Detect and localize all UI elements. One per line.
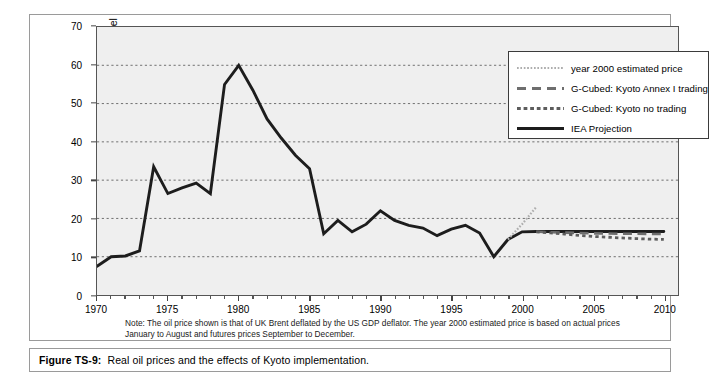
x-tick-minor [181, 296, 182, 299]
x-tick-minor [324, 296, 325, 299]
x-tick-minor [338, 296, 339, 299]
y-tick-label: 60 [42, 59, 82, 70]
x-tick-minor [537, 296, 538, 299]
x-tick-minor [352, 296, 353, 299]
x-tick-label: 1985 [289, 304, 329, 315]
x-tick-minor [124, 296, 125, 299]
x-tick-minor [622, 296, 623, 299]
x-tick-label: 1995 [431, 304, 471, 315]
y-tick-label: 10 [42, 252, 82, 263]
legend-swatch-no-trading [516, 102, 565, 114]
legend-item: year 2000 estimated price [516, 58, 702, 78]
legend-item: IEA Projection [516, 118, 702, 138]
x-tick-minor [224, 296, 225, 299]
x-tick-mark [594, 296, 595, 301]
x-tick-label: 1970 [76, 304, 116, 315]
y-tick-label: 40 [42, 136, 82, 147]
x-tick-label: 2010 [645, 304, 685, 315]
legend-swatch-year-2000-estimated-price [516, 62, 565, 74]
legend-item: G-Cubed: Kyoto no trading [516, 98, 702, 118]
y-tick-label: 20 [42, 213, 82, 224]
figure-note: Note: The oil price shown is that of UK … [125, 318, 650, 340]
x-tick-minor [395, 296, 396, 299]
x-tick-minor [551, 296, 552, 299]
x-tick-minor [366, 296, 367, 299]
x-tick-minor [636, 296, 637, 299]
x-tick-mark [238, 296, 239, 301]
x-tick-mark [665, 296, 666, 301]
x-tick-mark [96, 296, 97, 301]
x-tick-mark [167, 296, 168, 301]
legend-label: G-Cubed: Kyoto no trading [571, 103, 686, 114]
x-tick-mark [309, 296, 310, 301]
series-line [508, 207, 536, 240]
x-tick-minor [196, 296, 197, 299]
x-tick-minor [480, 296, 481, 299]
figure-frame: Real oil price $(1990) per barrel 010203… [29, 14, 671, 341]
x-tick-minor [281, 296, 282, 299]
x-tick-label: 2000 [503, 304, 543, 315]
x-tick-minor [608, 296, 609, 299]
legend-item: G-Cubed: Kyoto Annex I trading [516, 78, 702, 98]
x-tick-label: 2005 [574, 304, 614, 315]
y-tick-label: 70 [42, 21, 82, 32]
legend-label: G-Cubed: Kyoto Annex I trading [571, 83, 708, 94]
x-tick-minor [267, 296, 268, 299]
x-tick-mark [523, 296, 524, 301]
x-tick-mark [451, 296, 452, 301]
x-tick-minor [210, 296, 211, 299]
x-tick-minor [466, 296, 467, 299]
chart-legend: year 2000 estimated price G-Cubed: Kyoto… [508, 51, 709, 139]
x-tick-minor [409, 296, 410, 299]
x-tick-minor [579, 296, 580, 299]
x-tick-minor [651, 296, 652, 299]
x-tick-mark [380, 296, 381, 301]
x-tick-minor [494, 296, 495, 299]
legend-label: IEA Projection [571, 123, 632, 134]
figure-caption-prefix: Figure TS-9: [39, 354, 101, 366]
chart-plot-wrapper: Real oil price $(1990) per barrel 010203… [67, 26, 679, 310]
x-tick-minor [153, 296, 154, 299]
x-tick-minor [252, 296, 253, 299]
x-tick-label: 1980 [218, 304, 258, 315]
x-tick-minor [508, 296, 509, 299]
legend-swatch-iea-projection [516, 122, 565, 134]
legend-swatch-annex-i-trading [516, 82, 565, 94]
y-tick-label: 30 [42, 175, 82, 186]
x-tick-minor [139, 296, 140, 299]
x-tick-label: 1975 [147, 304, 187, 315]
x-tick-label: 1990 [360, 304, 400, 315]
x-tick-minor [437, 296, 438, 299]
legend-label: year 2000 estimated price [571, 63, 683, 74]
x-tick-minor [423, 296, 424, 299]
x-tick-minor [295, 296, 296, 299]
figure-caption-text: Real oil prices and the effects of Kyoto… [107, 354, 369, 366]
figure-caption: Figure TS-9: Real oil prices and the eff… [30, 354, 369, 366]
y-tick-label: 0 [42, 291, 82, 302]
figure-caption-box: Figure TS-9: Real oil prices and the eff… [29, 348, 671, 372]
y-tick-label: 50 [42, 98, 82, 109]
x-tick-minor [565, 296, 566, 299]
x-tick-minor [110, 296, 111, 299]
